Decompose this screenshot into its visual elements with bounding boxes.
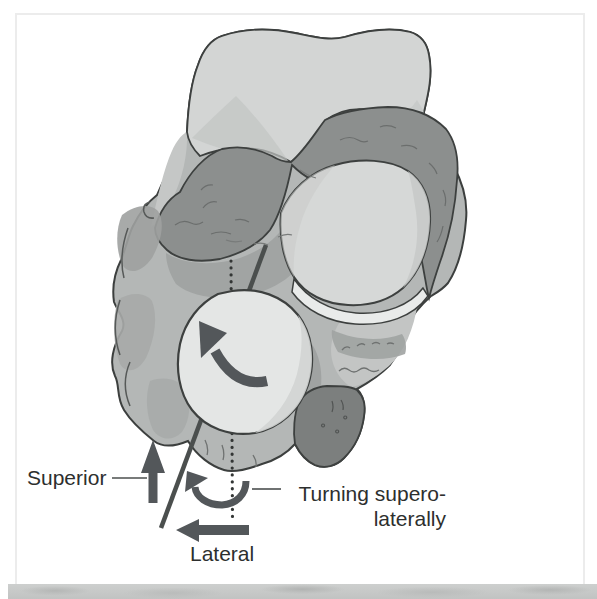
lateral-label: Lateral — [190, 541, 254, 566]
lateral-arrow — [176, 519, 249, 542]
figure-page: Superior Lateral Turning supero- lateral… — [0, 0, 597, 599]
bottom-lump — [294, 386, 365, 467]
turning-label-line1: Turning supero- — [282, 481, 446, 506]
superior-label: Superior — [27, 465, 106, 490]
superior-arrow — [141, 440, 165, 503]
turning-label-line2: laterally — [282, 506, 446, 531]
turning-label: Turning supero- laterally — [282, 481, 446, 531]
scan-artifact-strip — [8, 584, 597, 599]
turning-arc-arrow-body — [195, 481, 246, 505]
